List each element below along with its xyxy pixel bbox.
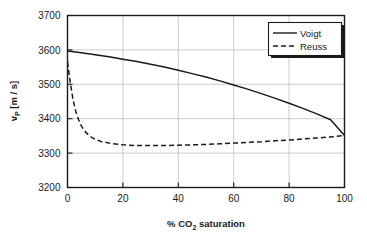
chart-figure: 320033003400350036003700 020406080100 % … [0, 0, 367, 242]
y-tick-label: 3600 [38, 45, 61, 56]
y-tick-label: 3500 [38, 79, 61, 90]
x-axis-title-tail: saturation [196, 218, 245, 229]
legend-label-voigt: Voigt [300, 28, 321, 39]
x-tick-label: 60 [228, 193, 240, 204]
x-tick-label: 40 [173, 193, 185, 204]
y-tick-label: 3300 [38, 148, 61, 159]
x-axis-title: % CO2 saturation [167, 218, 245, 231]
x-tick-label: 100 [336, 193, 353, 204]
x-tick-label: 20 [117, 193, 129, 204]
y-tick-label: 3700 [38, 10, 61, 21]
y-tick-label: 3400 [38, 113, 61, 124]
x-axis-title-main: % CO [167, 218, 192, 229]
chart-legend[interactable]: Voigt Reuss [269, 23, 345, 59]
y-axis-title-tail: [m / s] [8, 81, 19, 112]
svg-text:% CO2 saturation: % CO2 saturation [167, 218, 245, 231]
y-tick-label: 3200 [38, 182, 61, 193]
chart-svg: 320033003400350036003700 020406080100 % … [0, 0, 367, 242]
x-tick-label: 0 [65, 193, 71, 204]
x-tick-label: 80 [284, 193, 296, 204]
legend-label-reuss: Reuss [300, 41, 327, 52]
